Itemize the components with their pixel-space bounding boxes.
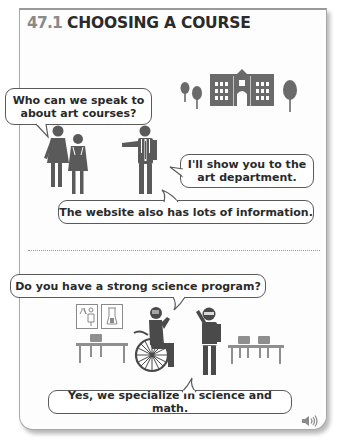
- speech-bubble-specialize: Yes, we specialize in science and math.: [48, 390, 292, 414]
- bubble-text-line: art department.: [197, 171, 296, 184]
- tree-icon: [280, 78, 300, 112]
- bubble-text-line: about art courses?: [21, 107, 137, 120]
- section-heading: 47.1CHOOSING A COURSE: [27, 14, 251, 32]
- speaker-icon[interactable]: [302, 415, 318, 427]
- bubble-text: The website also has lots of information…: [59, 206, 313, 219]
- school-building-icon: [210, 68, 274, 106]
- bubble-tail: [162, 190, 180, 202]
- bubble-tail: [182, 378, 198, 392]
- section-title: CHOOSING A COURSE: [67, 14, 251, 32]
- desk-icon: [76, 334, 128, 364]
- bubble-text: Yes, we specialize in science and math.: [49, 389, 291, 415]
- trees-icon: [178, 78, 208, 110]
- bubble-text: Do you have a strong science program?: [15, 280, 261, 293]
- bubble-tail: [170, 167, 184, 179]
- teacher-waving-icon: [193, 306, 227, 376]
- staff-member-pointing-icon: [120, 125, 160, 197]
- speech-bubble-answer-department: I'll show you to the art department.: [180, 154, 314, 188]
- wheelchair-student-icon: [130, 305, 186, 375]
- speech-bubble-website-info: The website also has lots of information…: [58, 200, 314, 224]
- desks-icon: [228, 336, 284, 366]
- section-number: 47.1: [27, 14, 62, 32]
- bubble-text-line: Who can we speak to: [13, 94, 145, 107]
- speech-bubble-science-program: Do you have a strong science program?: [10, 274, 266, 298]
- section-divider: [28, 250, 320, 251]
- bubble-text-line: I'll show you to the: [188, 158, 306, 171]
- lab-posters-icon: [76, 304, 124, 330]
- speech-bubble-question-art: Who can we speak to about art courses?: [5, 88, 152, 125]
- bubble-tail: [36, 123, 50, 137]
